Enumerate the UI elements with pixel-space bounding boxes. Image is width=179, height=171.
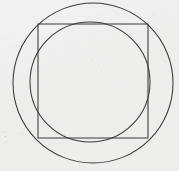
square-shape bbox=[38, 24, 148, 138]
figure-canvas bbox=[0, 0, 179, 171]
outer-circle-shape bbox=[13, 3, 173, 163]
inner-circle-shape bbox=[30, 22, 150, 142]
geometry-figure-svg bbox=[0, 0, 179, 171]
